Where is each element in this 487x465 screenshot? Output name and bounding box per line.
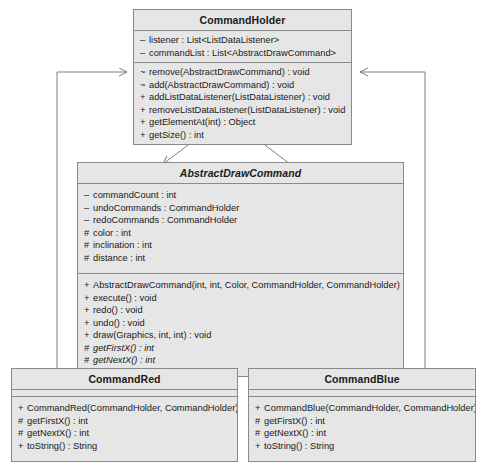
visibility-marker: # — [255, 415, 264, 428]
operation-label: CommandRed(CommandHolder, CommandHolder) — [27, 403, 237, 413]
visibility-marker: + — [255, 440, 264, 453]
attribute-label: commandCount : int — [93, 190, 176, 200]
visibility-marker: + — [84, 292, 93, 305]
compartment-spacer — [12, 452, 237, 458]
operation-row: #getFirstX() : int — [78, 342, 403, 355]
class-box-command-blue[interactable]: CommandBlue +CommandBlue(CommandHolder, … — [248, 368, 476, 462]
operation-label: toString() : String — [27, 441, 97, 451]
visibility-marker: + — [140, 91, 149, 104]
operation-label: getNextX() : int — [93, 355, 155, 365]
attribute-label: inclination : int — [93, 240, 152, 250]
class-box-command-red[interactable]: CommandRed +CommandRed(CommandHolder, Co… — [11, 368, 238, 462]
visibility-marker: + — [18, 402, 27, 415]
compartment-spacer — [249, 452, 475, 458]
operation-row: +toString() : String — [249, 440, 475, 453]
attributes-compartment-abstract-draw-command: –commandCount : int –undoCommands : Comm… — [78, 184, 403, 273]
operation-label: add(AbstractDrawCommand) : void — [149, 80, 294, 90]
operations-compartment-command-red: +CommandRed(CommandHolder, CommandHolder… — [12, 397, 237, 461]
operation-row: +removeListDataListener(ListDataListener… — [134, 104, 351, 117]
attribute-label: undoCommands : CommandHolder — [93, 203, 239, 213]
class-box-abstract-draw-command[interactable]: AbstractDrawCommand –commandCount : int … — [77, 162, 404, 377]
operation-row: #getNextX() : int — [249, 427, 475, 440]
attribute-label: commandList : List<AbstractDrawCommand> — [149, 48, 336, 58]
operations-compartment-command-holder: ~remove(AbstractDrawCommand) : void ~add… — [134, 63, 351, 144]
visibility-marker: + — [84, 317, 93, 330]
attribute-row: #inclination : int — [78, 239, 403, 252]
visibility-marker: – — [84, 189, 93, 202]
visibility-marker: – — [84, 202, 93, 215]
visibility-marker: + — [255, 402, 264, 415]
visibility-marker: + — [140, 129, 149, 142]
operation-label: execute() : void — [93, 293, 157, 303]
operation-row: #getNextX() : int — [12, 427, 237, 440]
visibility-marker: ~ — [140, 66, 149, 79]
class-box-command-holder[interactable]: CommandHolder –listener : List<ListDataL… — [133, 9, 352, 145]
operation-label: undo() : void — [93, 318, 145, 328]
operation-row: #getNextX() : int — [78, 354, 403, 367]
operation-row: +addListDataListener(ListDataListener) :… — [134, 91, 351, 104]
visibility-marker: – — [84, 214, 93, 227]
class-name-command-red: CommandRed — [12, 369, 237, 389]
operation-label: getFirstX() : int — [93, 343, 154, 353]
operation-label: AbstractDrawCommand(int, int, Color, Com… — [93, 280, 400, 290]
operation-label: CommandBlue(CommandHolder, CommandHolder… — [264, 403, 475, 413]
operation-label: redo() : void — [93, 305, 143, 315]
operation-row: ~remove(AbstractDrawCommand) : void — [134, 66, 351, 79]
attribute-row: –commandList : List<AbstractDrawCommand> — [134, 47, 351, 60]
visibility-marker: + — [140, 104, 149, 117]
attributes-compartment-command-holder: –listener : List<ListDataListener> –comm… — [134, 31, 351, 62]
attribute-row: –undoCommands : CommandHolder — [78, 202, 403, 215]
attribute-row: #distance : int — [78, 252, 403, 265]
operation-label: getFirstX() : int — [264, 416, 325, 426]
operation-label: draw(Graphics, int, int) : void — [93, 330, 211, 340]
attribute-row: –redoCommands : CommandHolder — [78, 214, 403, 227]
attribute-label: listener : List<ListDataListener> — [149, 35, 279, 45]
attribute-row: –listener : List<ListDataListener> — [134, 34, 351, 47]
class-name-command-holder: CommandHolder — [134, 10, 351, 30]
visibility-marker: + — [84, 329, 93, 342]
operation-row: #getFirstX() : int — [12, 415, 237, 428]
visibility-marker: # — [84, 252, 93, 265]
visibility-marker: + — [84, 279, 93, 292]
operation-label: addListDataListener(ListDataListener) : … — [149, 92, 330, 102]
visibility-marker: + — [18, 440, 27, 453]
operation-row: +getSize() : int — [134, 129, 351, 142]
class-name-abstract-draw-command: AbstractDrawCommand — [78, 163, 403, 183]
operation-row: +CommandRed(CommandHolder, CommandHolder… — [12, 402, 237, 415]
operations-compartment-command-blue: +CommandBlue(CommandHolder, CommandHolde… — [249, 397, 475, 461]
operation-label: removeListDataListener(ListDataListener)… — [149, 105, 345, 115]
attribute-label: redoCommands : CommandHolder — [93, 215, 237, 225]
visibility-marker: – — [140, 34, 149, 47]
operation-label: toString() : String — [264, 441, 334, 451]
operation-label: getNextX() : int — [27, 428, 89, 438]
operation-row: +toString() : String — [12, 440, 237, 453]
operation-label: getNextX() : int — [264, 428, 326, 438]
compartment-spacer — [78, 264, 403, 270]
operation-row: #getFirstX() : int — [249, 415, 475, 428]
visibility-marker: # — [84, 342, 93, 355]
attribute-row: #color : int — [78, 227, 403, 240]
operation-row: ~add(AbstractDrawCommand) : void — [134, 79, 351, 92]
class-name-command-blue: CommandBlue — [249, 369, 475, 389]
operation-label: getFirstX() : int — [27, 416, 88, 426]
operation-row: +AbstractDrawCommand(int, int, Color, Co… — [78, 279, 403, 292]
operation-row: +redo() : void — [78, 304, 403, 317]
visibility-marker: # — [18, 415, 27, 428]
operation-row: +draw(Graphics, int, int) : void — [78, 329, 403, 342]
visibility-marker: # — [84, 354, 93, 367]
visibility-marker: + — [84, 304, 93, 317]
operation-label: remove(AbstractDrawCommand) : void — [149, 67, 310, 77]
visibility-marker: # — [18, 427, 27, 440]
operation-label: getElementAt(int) : Object — [149, 117, 255, 127]
attribute-row: –commandCount : int — [78, 189, 403, 202]
operation-row: +CommandBlue(CommandHolder, CommandHolde… — [249, 402, 475, 415]
visibility-marker: # — [84, 227, 93, 240]
visibility-marker: – — [140, 47, 149, 60]
operation-row: +getElementAt(int) : Object — [134, 116, 351, 129]
attribute-label: distance : int — [93, 253, 145, 263]
visibility-marker: ~ — [140, 79, 149, 92]
visibility-marker: # — [255, 427, 264, 440]
operation-row: +undo() : void — [78, 317, 403, 330]
visibility-marker: + — [140, 116, 149, 129]
operation-row: +execute() : void — [78, 292, 403, 305]
